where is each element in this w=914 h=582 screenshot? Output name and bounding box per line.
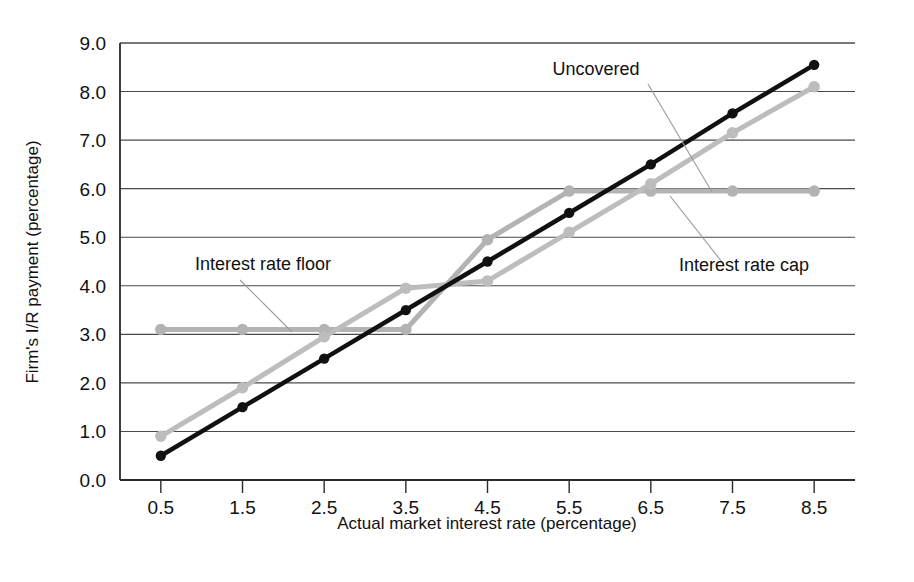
data-point-uncovered-8.5	[809, 60, 819, 70]
y-tick-label-5.0: 5.0	[80, 227, 106, 248]
data-point-interest-rate-cap-5.5	[563, 227, 575, 239]
data-point-interest-rate-floor-0.5	[155, 324, 167, 336]
data-point-uncovered-2.5	[319, 353, 329, 363]
y-tick-label-3.0: 3.0	[80, 324, 106, 345]
y-tick-label-2.0: 2.0	[80, 373, 106, 394]
data-point-uncovered-5.5	[564, 208, 574, 218]
data-point-interest-rate-floor-8.5	[808, 185, 820, 197]
data-point-uncovered-1.5	[237, 402, 247, 412]
data-point-interest-rate-cap-1.5	[237, 382, 249, 394]
y-tick-label-7.0: 7.0	[80, 130, 106, 151]
x-tick-label-8.5: 8.5	[801, 497, 827, 518]
y-tick-label-6.0: 6.0	[80, 179, 106, 200]
data-point-interest-rate-cap-0.5	[155, 431, 167, 443]
y-axis-title: Firm's I/R payment (percentage)	[23, 140, 42, 383]
x-tick-label-2.5: 2.5	[311, 497, 337, 518]
data-point-interest-rate-cap-2.5	[318, 331, 330, 343]
data-point-uncovered-3.5	[401, 305, 411, 315]
y-tick-label-1.0: 1.0	[80, 421, 106, 442]
chart-page: 0.01.02.03.04.05.06.07.08.09.0 0.51.52.5…	[0, 0, 914, 582]
interest-rate-line-chart: 0.01.02.03.04.05.06.07.08.09.0 0.51.52.5…	[0, 0, 914, 582]
data-point-interest-rate-cap-4.5	[482, 275, 494, 287]
data-point-interest-rate-floor-1.5	[237, 324, 249, 336]
y-tick-label-4.0: 4.0	[80, 276, 106, 297]
data-point-interest-rate-cap-3.5	[400, 282, 412, 294]
x-tick-label-0.5: 0.5	[148, 497, 174, 518]
annotation-label-interest-rate-cap: Interest rate cap	[679, 255, 809, 275]
data-point-uncovered-0.5	[156, 451, 166, 461]
data-point-interest-rate-floor-5.5	[563, 185, 575, 197]
data-point-uncovered-7.5	[727, 108, 737, 118]
data-point-interest-rate-cap-8.5	[808, 81, 820, 93]
data-point-interest-rate-floor-4.5	[482, 234, 494, 246]
x-tick-label-1.5: 1.5	[229, 497, 255, 518]
annotation-label-interest-rate-floor: Interest rate floor	[195, 254, 331, 274]
annotation-label-uncovered: Uncovered	[552, 59, 639, 79]
y-tick-label-0.0: 0.0	[80, 470, 106, 491]
data-point-interest-rate-cap-7.5	[727, 127, 739, 139]
y-tick-label-9.0: 9.0	[80, 33, 106, 54]
data-point-uncovered-6.5	[646, 159, 656, 169]
y-tick-label-8.0: 8.0	[80, 82, 106, 103]
x-axis-title: Actual market interest rate (percentage)	[337, 514, 637, 533]
data-point-uncovered-4.5	[482, 256, 492, 266]
x-tick-label-7.5: 7.5	[719, 497, 745, 518]
data-point-interest-rate-cap-6.5	[645, 178, 657, 190]
x-tick-label-6.5: 6.5	[638, 497, 664, 518]
data-point-interest-rate-floor-3.5	[400, 324, 412, 336]
data-point-interest-rate-floor-7.5	[727, 185, 739, 197]
